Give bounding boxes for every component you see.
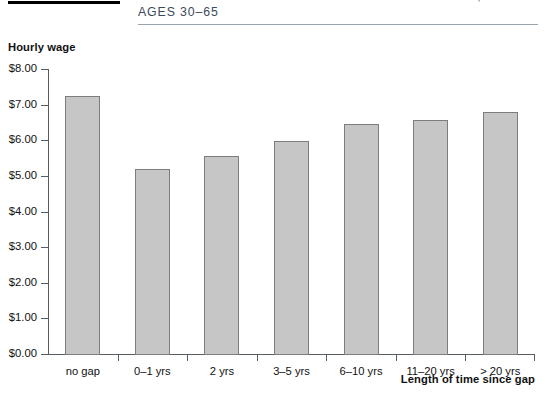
bar (135, 169, 170, 355)
y-axis-tick-label: $5.00 (0, 169, 37, 181)
y-axis-tick-label: $3.00 (0, 240, 37, 252)
x-axis-tick-label: 0–1 yrs (118, 365, 188, 377)
y-axis-tick (41, 105, 48, 106)
x-axis-tick-label: 2 yrs (187, 365, 257, 377)
x-axis-tick-label: > 20 yrs (465, 365, 535, 377)
bar (65, 96, 100, 355)
chart-title-line-2: Ages 30–65 (138, 5, 538, 21)
chart-title: The Effect of Employment Gaps for Women,… (138, 0, 538, 20)
y-axis-tick-label: $7.00 (0, 98, 37, 110)
y-axis-tick (41, 212, 48, 213)
y-axis-title: Hourly wage (8, 41, 76, 53)
y-axis-tick-label: $4.00 (0, 205, 37, 217)
x-axis-tick (118, 355, 119, 361)
y-axis-tick (41, 176, 48, 177)
bar (344, 124, 379, 355)
x-axis-tick (465, 355, 466, 361)
y-axis-tick-label: $2.00 (0, 276, 37, 288)
x-axis-tick (187, 355, 188, 361)
x-axis-tick-label: no gap (48, 365, 118, 377)
x-axis-tick-label: 11–20 yrs (396, 365, 466, 377)
y-axis-line (48, 69, 49, 355)
title-rule (138, 24, 538, 25)
chart-title-line-1: The Effect of Employment Gaps for Women, (138, 0, 538, 5)
bar-chart-plot-area: $0.00$1.00$2.00$3.00$4.00$5.00$6.00$7.00… (48, 69, 535, 354)
y-axis-tick-label: $1.00 (0, 311, 37, 323)
x-axis-tick (396, 355, 397, 361)
y-axis-tick-label: $0.00 (0, 347, 37, 359)
y-axis-tick (41, 318, 48, 319)
y-axis-tick (41, 69, 48, 70)
y-axis-tick-label: $8.00 (0, 62, 37, 74)
y-axis-tick (41, 354, 48, 355)
x-axis-tick (534, 355, 535, 361)
bar (413, 120, 448, 355)
x-axis-tick (326, 355, 327, 361)
x-axis-tick (257, 355, 258, 361)
y-axis-tick-label: $6.00 (0, 133, 37, 145)
y-axis-tick (41, 140, 48, 141)
y-axis-tick (41, 247, 48, 248)
x-axis-tick-label: 3–5 yrs (257, 365, 327, 377)
bar (483, 112, 518, 355)
bar (274, 141, 309, 355)
header-rule-left (8, 1, 120, 4)
x-axis-tick-label: 6–10 yrs (326, 365, 396, 377)
bar (204, 156, 239, 355)
y-axis-tick (41, 283, 48, 284)
